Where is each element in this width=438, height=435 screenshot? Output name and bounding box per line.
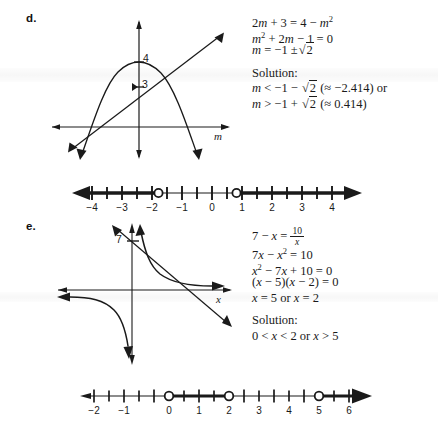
- equation-d-2: m2 + 2m − 1 = 0: [252, 28, 387, 44]
- sqrt-2-icon: √2: [301, 81, 317, 97]
- part-label-d: d.: [26, 12, 37, 24]
- numline-e-tick-label: 2: [220, 405, 238, 416]
- work-part-d: 2m + 3 = 4 − m2 m2 + 2m − 1 = 0 m = −1 ±…: [252, 12, 387, 112]
- numline-e-tick-label: −1: [115, 405, 133, 416]
- equation-e-2: 7x − x2 = 10: [252, 244, 338, 260]
- numline-e-open-point-5: [315, 392, 324, 401]
- y-axis-top-arrowhead: [136, 20, 142, 29]
- sqrt-2-icon: √2: [301, 97, 317, 113]
- numline-d-tick-label: 0: [203, 202, 221, 213]
- numline-e-right-arrowhead: [352, 389, 372, 404]
- y-axis-bottom-arrowhead: [129, 355, 135, 365]
- work-part-e: 7 − x = 10x 7x − x2 = 10 x2 − 7x + 10 = …: [252, 226, 338, 344]
- tick-3-marker: [132, 83, 138, 91]
- numberline-part-e: −2 −1 0 1 2 3 4 5 6: [76, 383, 376, 423]
- worksheet-page: d.: [0, 0, 438, 435]
- solution-heading-d: Solution:: [252, 66, 387, 82]
- numline-e-tick-label: 5: [310, 405, 328, 416]
- line-upper-arrowhead: [215, 33, 225, 44]
- equation-e-solution: 0 < x < 2 or x > 5: [252, 329, 338, 345]
- parabola-right-arrowhead: [193, 149, 203, 161]
- numline-e-left-arrowhead: [80, 393, 91, 399]
- hyperbola-upper-top-arrowhead: [136, 224, 146, 236]
- hyperbola-branch-lower-left: [70, 297, 128, 346]
- graph-e-axis-label-x: x: [216, 293, 221, 305]
- m-axis-right-arrowhead: [221, 124, 230, 130]
- x-axis-right-arrowhead: [223, 287, 232, 292]
- parabola-left-arrowhead: [77, 149, 87, 161]
- solution-heading-e: Solution:: [252, 313, 338, 329]
- graph-e-label-7: 7: [116, 233, 122, 245]
- y-axis-bottom-arrowhead: [136, 150, 142, 159]
- numline-e-tick-label: 6: [340, 405, 358, 416]
- numline-e-tick-label: 1: [190, 405, 208, 416]
- numline-d-open-point-0414: [232, 189, 240, 197]
- numline-d-tick-label: 4: [323, 202, 341, 213]
- equation-d-1: 2m + 3 = 4 − m2: [252, 12, 387, 28]
- equation-e-3: x2 − 7x + 10 = 0: [252, 260, 338, 276]
- numline-e-tick-label: 3: [250, 405, 268, 416]
- numberline-part-d: −4 −3 −2 −1 0 1 2 3 4: [62, 180, 372, 220]
- y-axis-top-arrowhead: [129, 223, 135, 233]
- numline-d-right-arrowhead: [344, 186, 362, 200]
- equation-e-1: 7 − x = 10x: [252, 226, 338, 244]
- hyperbola-lower-left-arrowhead: [57, 293, 70, 302]
- numline-d-tick-label: −1: [173, 202, 191, 213]
- graph-part-d: 4 3 m: [40, 14, 250, 164]
- equation-d-solution-1: m < −1 − √2 (≈ −2.414) or: [252, 81, 387, 97]
- line-lower-arrowhead: [68, 143, 78, 153]
- spacer: [252, 59, 387, 66]
- equation-e-4: (x − 5)(x − 2) = 0: [252, 275, 338, 291]
- graph-part-e: 7 x: [40, 218, 250, 370]
- numline-d-tick-label: −2: [143, 202, 161, 213]
- numline-d-open-point-neg2414: [154, 189, 162, 197]
- sqrt-2-icon: √2: [298, 43, 314, 59]
- numline-e-open-point-2: [225, 392, 234, 401]
- line-lower-right-arrowhead: [222, 315, 232, 327]
- spacer: [252, 306, 338, 313]
- numline-d-tick-label: 1: [233, 202, 251, 213]
- m-axis-left-arrowhead: [52, 124, 60, 130]
- numline-e-tick-label: −2: [85, 405, 103, 416]
- graph-d-axis-label-m: m: [214, 130, 222, 142]
- numline-d-tick-label: 2: [263, 202, 281, 213]
- part-label-e: e.: [26, 220, 36, 232]
- numline-d-left-arrowhead: [72, 186, 90, 200]
- equation-d-solution-2: m > −1 + √2 (≈ 0.414): [252, 97, 387, 113]
- numline-d-tick-label: 3: [293, 202, 311, 213]
- numline-d-tick-label: −4: [83, 202, 101, 213]
- numline-e-open-point-0: [165, 392, 174, 401]
- graph-d-label-4: 4: [143, 52, 149, 64]
- numline-e-tick-label: 4: [280, 405, 298, 416]
- numline-d-tick-label: −3: [113, 202, 131, 213]
- equation-e-5: x = 5 or x = 2: [252, 291, 338, 307]
- line-7-minus-x: [118, 230, 226, 322]
- x-axis-left-arrowhead: [58, 287, 67, 292]
- numline-e-tick-label: 0: [160, 405, 178, 416]
- graph-d-label-3: 3: [142, 78, 148, 90]
